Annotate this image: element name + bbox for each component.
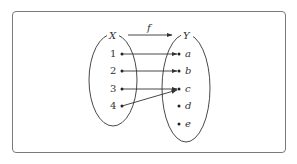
codomain-dot-a: [178, 53, 181, 56]
codomain-dot-e: [178, 123, 181, 126]
mapping-diagram: X Y f 1 2 3 4 a b c d e: [0, 0, 297, 164]
codomain-element-b: b: [185, 65, 191, 76]
codomain-dot-c: [178, 88, 181, 91]
codomain-element-c: c: [185, 83, 191, 94]
domain-set-label: X: [108, 30, 117, 41]
domain-element-1: 1: [110, 48, 116, 59]
domain-element-4: 4: [110, 100, 116, 111]
codomain-element-e: e: [185, 118, 191, 129]
codomain-dot-b: [178, 70, 181, 73]
mapping-arrow-4-c: [122, 90, 177, 106]
codomain-dot-d: [178, 105, 181, 108]
function-label: f: [146, 22, 153, 33]
domain-element-3: 3: [110, 83, 116, 94]
codomain-element-a: a: [185, 48, 191, 59]
codomain-element-d: d: [185, 100, 191, 111]
domain-element-2: 2: [110, 65, 116, 76]
